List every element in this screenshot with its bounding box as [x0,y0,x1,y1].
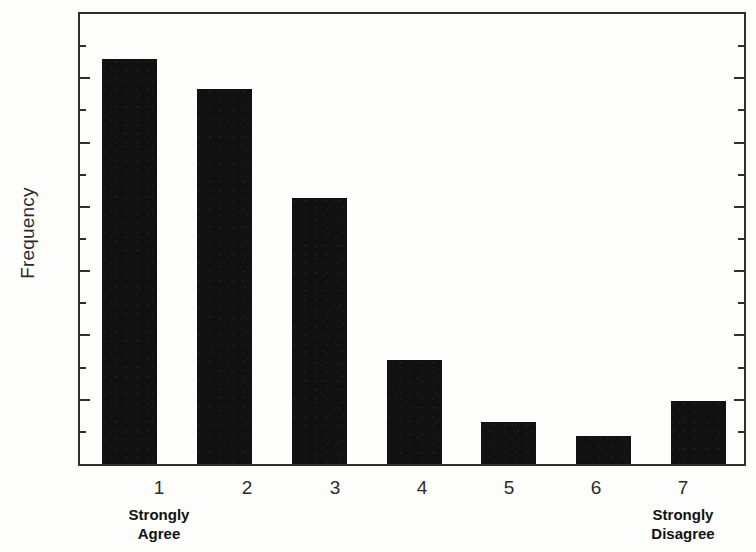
scale-anchor-low-line2: Agree [84,525,234,544]
y-axis-tick-major-l-20 [80,206,90,208]
y-axis-tick-minor-l-2.5 [80,431,86,433]
bar-category-2 [197,89,252,464]
y-axis-tick-minor-r-7.5 [738,367,744,369]
y-axis-tick-major-r-25 [734,142,744,144]
y-axis-tick-major-l-30 [80,77,90,79]
bar-category-7 [671,401,726,464]
y-axis-tick-major-r-20 [734,206,744,208]
y-axis-tick-minor-l-12.5 [80,302,86,304]
y-axis-tick-major-l-10 [80,334,90,336]
plot-area [78,12,746,466]
y-axis-tick-minor-r-12.5 [738,302,744,304]
x-tick-label-5: 5 [479,477,539,499]
bar-category-1 [102,59,157,464]
y-axis-tick-minor-r-17.5 [738,238,744,240]
x-tick-label-6: 6 [566,477,626,499]
bar-category-5 [481,422,536,464]
y-axis-tick-minor-l-17.5 [80,238,86,240]
x-tick-label-4: 4 [392,477,452,499]
x-tick-label-3: 3 [305,477,365,499]
y-axis-tick-major-r-5 [734,399,744,401]
y-axis-tick-major-r-10 [734,334,744,336]
bar-category-3 [292,198,347,464]
x-tick-label-7: 7 [653,477,713,499]
bar-category-4 [387,360,442,464]
y-axis-tick-minor-r-22.5 [738,174,744,176]
y-axis-tick-major-r-30 [734,77,744,79]
y-axis-tick-major-l-15 [80,270,90,272]
scale-anchor-high-line1: Strongly [608,506,756,525]
x-tick-label-1: 1 [129,477,189,499]
scale-anchor-low-line1: Strongly [84,506,234,525]
y-axis-tick-minor-l-27.5 [80,109,86,111]
y-axis-tick-major-l-25 [80,142,90,144]
bar-chart-figure: Frequency 35 30 25 20 15 10 5 0 1 2 3 4 … [0,0,756,552]
x-tick-label-2: 2 [217,477,277,499]
y-axis-tick-minor-l-32.5 [80,45,86,47]
y-axis-tick-minor-l-7.5 [80,367,86,369]
y-axis-title: Frequency [17,153,39,313]
y-axis-tick-minor-r-2.5 [738,431,744,433]
y-axis-tick-major-l-5 [80,399,90,401]
scale-anchor-low: Strongly Agree [84,506,234,544]
y-axis-tick-minor-l-22.5 [80,174,86,176]
y-axis-tick-minor-r-27.5 [738,109,744,111]
y-axis-tick-major-r-15 [734,270,744,272]
y-axis-tick-minor-r-32.5 [738,45,744,47]
scale-anchor-high-line2: Disagree [608,525,756,544]
scale-anchor-high: Strongly Disagree [608,506,756,544]
bar-category-6 [576,436,631,464]
